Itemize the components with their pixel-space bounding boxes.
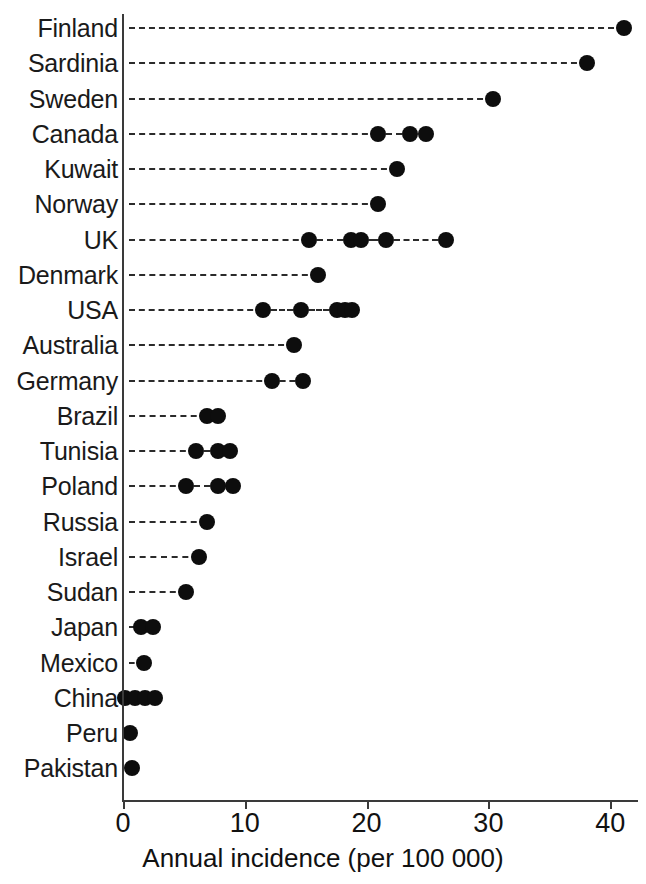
data-point: [378, 232, 394, 248]
category-label-norway: Norway: [34, 192, 118, 217]
data-point: [210, 478, 226, 494]
data-point: [370, 126, 386, 142]
data-point: [370, 196, 386, 212]
data-point: [353, 232, 369, 248]
leader-line: [129, 274, 318, 276]
leader-line: [129, 27, 624, 29]
x-tick-label: 0: [115, 808, 130, 838]
x-tick-label: 20: [352, 808, 382, 838]
data-point: [145, 619, 161, 635]
category-label-tunisia: Tunisia: [40, 439, 118, 464]
category-label-finland: Finland: [37, 16, 118, 41]
data-point: [616, 20, 632, 36]
category-label-sardinia: Sardinia: [28, 51, 118, 76]
data-point: [310, 267, 326, 283]
x-axis-line: [122, 800, 638, 802]
leader-line: [129, 521, 207, 523]
data-point: [286, 337, 302, 353]
category-label-russia: Russia: [43, 509, 118, 534]
category-label-germany: Germany: [17, 368, 118, 393]
data-point: [136, 655, 152, 671]
leader-line-segment: [317, 239, 342, 241]
data-point: [418, 126, 434, 142]
data-point: [188, 443, 204, 459]
data-point: [579, 55, 595, 71]
data-point: [255, 302, 271, 318]
x-tick-label: 10: [230, 808, 260, 838]
data-point: [402, 126, 418, 142]
leader-line-segment: [280, 380, 296, 382]
category-label-peru: Peru: [66, 721, 118, 746]
category-label-kuwait: Kuwait: [44, 157, 118, 182]
data-point: [293, 302, 309, 318]
plot-area: FinlandSardiniaSwedenCanadaKuwaitNorwayU…: [0, 0, 646, 884]
leader-line: [129, 380, 272, 382]
data-point: [389, 161, 405, 177]
data-point: [295, 373, 311, 389]
category-label-usa: USA: [67, 298, 118, 323]
leader-line-segment: [369, 239, 379, 241]
category-label-denmark: Denmark: [18, 262, 118, 287]
category-label-brazil: Brazil: [57, 403, 118, 428]
data-point: [222, 443, 238, 459]
category-label-sweden: Sweden: [29, 86, 118, 111]
category-label-australia: Australia: [23, 333, 118, 358]
data-point: [124, 760, 140, 776]
data-point: [178, 478, 194, 494]
category-label-canada: Canada: [32, 121, 118, 146]
x-axis-title: Annual incidence (per 100 000): [0, 843, 646, 873]
leader-line: [129, 203, 378, 205]
leader-line: [129, 415, 207, 417]
leader-line: [129, 344, 294, 346]
data-point: [301, 232, 317, 248]
data-point: [438, 232, 454, 248]
data-point: [178, 584, 194, 600]
category-label-poland: Poland: [41, 474, 118, 499]
leader-line-segment: [194, 485, 210, 487]
data-point: [147, 690, 163, 706]
leader-line: [129, 239, 309, 241]
data-point: [122, 725, 138, 741]
category-label-sudan: Sudan: [47, 580, 118, 605]
data-point: [225, 478, 241, 494]
leader-line: [129, 98, 493, 100]
leader-line-segment: [394, 239, 438, 241]
leader-line: [129, 450, 196, 452]
leader-line: [129, 62, 587, 64]
data-point: [485, 91, 501, 107]
data-point: [191, 549, 207, 565]
leader-line: [129, 556, 199, 558]
y-axis-line: [122, 14, 124, 801]
data-point: [199, 514, 215, 530]
category-label-mexico: Mexico: [40, 650, 118, 675]
data-point: [264, 373, 280, 389]
category-label-israel: Israel: [58, 544, 118, 569]
category-label-pakistan: Pakistan: [24, 756, 118, 781]
x-tick-label: 40: [595, 808, 625, 838]
category-label-uk: UK: [84, 227, 118, 252]
category-label-china: China: [54, 685, 118, 710]
leader-line: [129, 168, 397, 170]
category-label-japan: Japan: [51, 615, 118, 640]
x-tick-label: 30: [473, 808, 503, 838]
dot-plot-chart: FinlandSardiniaSwedenCanadaKuwaitNorwayU…: [0, 0, 646, 884]
data-point: [344, 302, 360, 318]
data-point: [210, 408, 226, 424]
leader-line: [129, 309, 263, 311]
leader-line-segment: [271, 309, 293, 311]
leader-line: [129, 133, 378, 135]
leader-line-segment: [309, 309, 330, 311]
leader-line-segment: [386, 133, 403, 135]
